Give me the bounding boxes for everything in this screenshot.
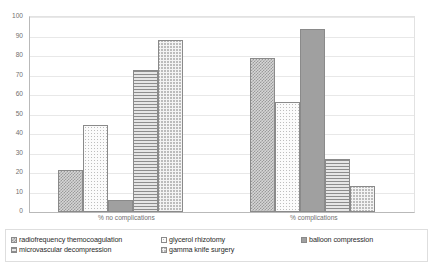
x-axis-category-labels: % no complications% complications <box>30 215 414 227</box>
bar-gamma-knife-surgery-no-complications <box>158 40 183 212</box>
chart-legend: radiofrequency themocoagulationglycerol … <box>5 229 428 262</box>
x-axis-label-1: % complications <box>290 215 338 222</box>
bar-radiofrequency-themocoagulation-no-complications <box>58 170 83 212</box>
legend-item-microvascular-decompression[interactable]: microvascular decompression <box>11 246 111 253</box>
y-axis-tick-100: 100 <box>12 13 23 20</box>
plot-wrapper: 0102030405060708090100 % no complication… <box>0 0 433 228</box>
legend-item-radiofrequency-themocoagulation[interactable]: radiofrequency themocoagulation <box>11 236 122 243</box>
y-axis-tick-50: 50 <box>16 111 23 118</box>
legend-swatch-zigzag-icon <box>161 247 167 253</box>
y-axis-tick-90: 90 <box>16 33 23 40</box>
bar-balloon-compression-no-complications <box>108 200 133 212</box>
y-axis-tick-20: 20 <box>16 169 23 176</box>
y-axis-tick-60: 60 <box>16 91 23 98</box>
y-axis-tick-0: 0 <box>19 208 23 215</box>
y-axis-tick-10: 10 <box>16 189 23 196</box>
bar-radiofrequency-themocoagulation-complications <box>250 58 275 212</box>
legend-label: microvascular decompression <box>19 246 111 253</box>
bar-chart: 0102030405060708090100 % no complication… <box>0 0 433 266</box>
bar-glycerol-rhizotomy-complications <box>275 102 300 212</box>
bar-gamma-knife-surgery-complications <box>350 186 375 212</box>
legend-swatch-hlines-icon <box>11 247 17 253</box>
legend-item-glycerol-rhizotomy[interactable]: glycerol rhizotomy <box>161 236 225 243</box>
bar-microvascular-decompression-complications <box>325 159 350 212</box>
legend-label: glycerol rhizotomy <box>169 236 225 243</box>
legend-swatch-checker-icon <box>11 237 17 243</box>
legend-label: balloon compression <box>309 236 373 243</box>
bar-glycerol-rhizotomy-no-complications <box>83 125 108 212</box>
legend-item-gamma-knife-surgery[interactable]: gamma knife surgery <box>161 246 234 253</box>
legend-label: radiofrequency themocoagulation <box>19 236 122 243</box>
y-axis-tick-labels: 0102030405060708090100 <box>0 16 26 213</box>
x-axis-label-0: % no complications <box>98 215 155 222</box>
bars-layer <box>30 17 414 212</box>
bar-microvascular-decompression-no-complications <box>133 70 158 212</box>
bar-balloon-compression-complications <box>300 29 325 212</box>
y-axis-tick-80: 80 <box>16 52 23 59</box>
y-axis-tick-70: 70 <box>16 72 23 79</box>
y-axis-tick-40: 40 <box>16 130 23 137</box>
legend-label: gamma knife surgery <box>169 246 234 253</box>
legend-swatch-solid-icon <box>301 237 307 243</box>
legend-swatch-dots-icon <box>161 237 167 243</box>
y-axis-tick-30: 30 <box>16 150 23 157</box>
legend-item-balloon-compression[interactable]: balloon compression <box>301 236 373 243</box>
